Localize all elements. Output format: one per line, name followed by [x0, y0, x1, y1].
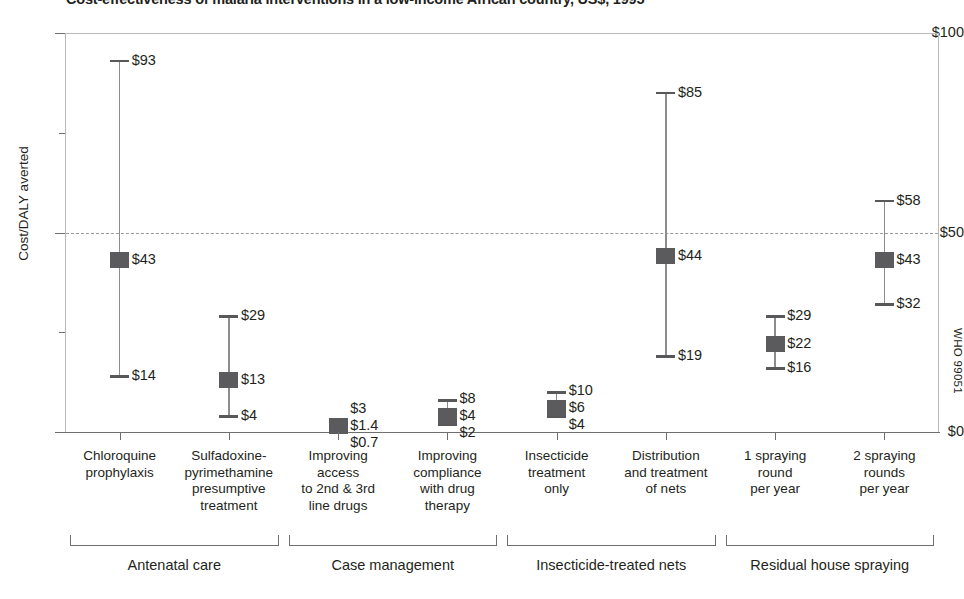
- whisker-cap-low: [656, 355, 675, 358]
- central-value-marker[interactable]: [438, 408, 457, 424]
- category-label: 2 sprayingroundsper year: [826, 448, 943, 498]
- whisker-cap-high: [875, 200, 894, 203]
- x-tick-mark: [229, 432, 230, 440]
- category-label-line: of nets: [607, 481, 724, 498]
- whisker-cap-high: [438, 399, 457, 402]
- category-label-line: access: [280, 465, 397, 482]
- whisker-cap-low: [875, 303, 894, 306]
- category-label-line: and treatment: [607, 465, 724, 482]
- whisker-line: [665, 93, 667, 356]
- x-axis-baseline: [65, 432, 940, 433]
- whisker-cap-high: [547, 391, 566, 394]
- whisker-cap-low: [219, 415, 238, 418]
- category-label-line: therapy: [389, 498, 506, 515]
- category-label-line: compliance: [389, 465, 506, 482]
- category-label-line: 2 spraying: [826, 448, 943, 465]
- category-label-line: rounds: [826, 465, 943, 482]
- category-label-line: treatment: [498, 465, 615, 482]
- value-label-high: $29: [241, 307, 265, 323]
- category-label: Insecticidetreatmentonly: [498, 448, 615, 498]
- value-label-low: $16: [787, 359, 811, 375]
- category-label: 1 sprayingroundper year: [717, 448, 834, 498]
- category-label: Distributionand treatmentof nets: [607, 448, 724, 498]
- value-label-central: $22: [787, 335, 811, 351]
- x-tick-mark: [775, 432, 776, 440]
- category-label-line: per year: [717, 481, 834, 498]
- value-label-central: $43: [132, 251, 156, 267]
- who-credit: WHO 99051: [952, 316, 964, 406]
- value-label-high: $85: [678, 84, 702, 100]
- value-label-high: $58: [896, 192, 920, 208]
- category-label-line: with drug: [389, 481, 506, 498]
- whisker-cap-high: [766, 315, 785, 318]
- group-bracket: [726, 535, 935, 546]
- central-value-marker[interactable]: [547, 400, 566, 416]
- central-value-marker[interactable]: [110, 252, 129, 268]
- value-label-low: $2: [459, 424, 475, 440]
- category-label-line: Insecticide: [498, 448, 615, 465]
- value-label-high: $29: [787, 307, 811, 323]
- value-label-low: $32: [896, 295, 920, 311]
- category-label-line: line drugs: [280, 498, 397, 515]
- chart-container: Cost-effectiveness of malaria interventi…: [0, 0, 964, 599]
- category-label-line: per year: [826, 481, 943, 498]
- whisker-cap-low: [766, 367, 785, 370]
- group-label: Insecticide-treated nets: [507, 557, 716, 573]
- central-value-marker[interactable]: [219, 372, 238, 388]
- category-label-line: prophylaxis: [61, 465, 178, 482]
- value-label-low: $14: [132, 367, 156, 383]
- central-value-marker[interactable]: [875, 252, 894, 268]
- category-label-line: Chloroquine: [61, 448, 178, 465]
- category-label: Improvingcompliancewith drugtherapy: [389, 448, 506, 514]
- group-bracket: [507, 535, 716, 546]
- group-label: Antenatal care: [70, 557, 279, 573]
- value-label-central: $4: [459, 407, 475, 423]
- value-label-low: $19: [678, 347, 702, 363]
- category-label: Improvingaccessto 2nd & 3rdline drugs: [280, 448, 397, 514]
- whisker-cap-high: [219, 315, 238, 318]
- category-label-line: only: [498, 481, 615, 498]
- x-tick-mark: [884, 432, 885, 440]
- value-label-high: $10: [569, 382, 593, 398]
- group-label: Case management: [289, 557, 498, 573]
- whisker-cap-high: [110, 60, 129, 63]
- value-label-high: $93: [132, 52, 156, 68]
- value-label-low: $4: [569, 416, 585, 432]
- category-label-line: Distribution: [607, 448, 724, 465]
- category-label-line: presumptive: [170, 481, 287, 498]
- category-label-line: treatment: [170, 498, 287, 515]
- central-value-marker[interactable]: [656, 248, 675, 264]
- value-label-high: $8: [459, 390, 475, 406]
- group-bracket: [289, 535, 498, 546]
- category-label: Sulfadoxine-pyrimethaminepresumptivetrea…: [170, 448, 287, 514]
- category-label-line: pyrimethamine: [170, 465, 287, 482]
- chart-title: Cost-effectiveness of malaria interventi…: [66, 0, 644, 7]
- x-tick-mark: [120, 432, 121, 440]
- category-label-line: Improving: [280, 448, 397, 465]
- category-label-line: round: [717, 465, 834, 482]
- category-label-line: 1 spraying: [717, 448, 834, 465]
- value-label-high: $3: [350, 400, 366, 416]
- gridline-50: [66, 233, 938, 234]
- central-value-marker[interactable]: [766, 336, 785, 352]
- whisker-cap-low: [110, 375, 129, 378]
- group-bracket: [70, 535, 279, 546]
- y-axis-title: Cost/DALY averted: [16, 134, 31, 274]
- x-tick-mark: [447, 432, 448, 440]
- whisker-line: [228, 316, 230, 416]
- value-label-central: $44: [678, 247, 702, 263]
- value-label-low: $4: [241, 407, 257, 423]
- x-tick-mark: [666, 432, 667, 440]
- value-label-central: $43: [896, 251, 920, 267]
- whisker-line: [119, 61, 121, 376]
- category-label-line: Sulfadoxine-: [170, 448, 287, 465]
- category-label-line: Improving: [389, 448, 506, 465]
- value-label-central: $6: [569, 399, 585, 415]
- whisker-cap-high: [656, 92, 675, 95]
- category-label-line: to 2nd & 3rd: [280, 481, 397, 498]
- group-label: Residual house spraying: [726, 557, 935, 573]
- x-tick-mark: [338, 432, 339, 440]
- x-tick-mark: [557, 432, 558, 440]
- value-label-central: $13: [241, 371, 265, 387]
- category-label: Chloroquineprophylaxis: [61, 448, 178, 481]
